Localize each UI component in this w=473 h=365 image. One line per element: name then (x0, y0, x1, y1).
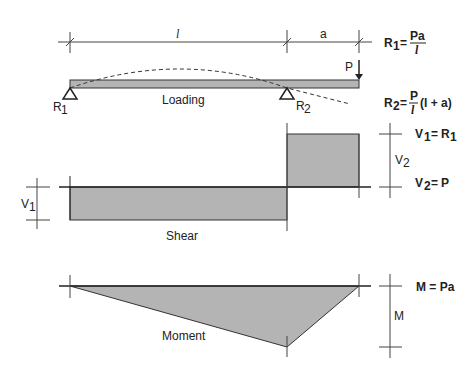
svg-text:M: M (394, 309, 404, 323)
svg-text:1: 1 (393, 39, 400, 53)
svg-text:1: 1 (450, 130, 457, 144)
svg-text:1: 1 (424, 130, 431, 144)
svg-text:Pa: Pa (410, 29, 425, 43)
svg-text:l: l (411, 103, 415, 117)
shear-title: Shear (166, 229, 198, 243)
load-label: P (345, 60, 353, 74)
overhang-label: a (320, 27, 327, 41)
svg-text:P: P (410, 89, 418, 103)
svg-text:P: P (441, 176, 449, 190)
svg-text:2: 2 (424, 179, 431, 193)
svg-text:=: = (400, 36, 407, 50)
moment-diagram (59, 274, 371, 357)
span-label: l (176, 27, 180, 41)
formula-r1: R 1 = Pa l (384, 29, 426, 57)
svg-text:2: 2 (403, 156, 410, 170)
svg-text:=: = (400, 96, 407, 110)
shear-diagram (59, 123, 371, 231)
svg-text:=: = (431, 176, 438, 190)
moment-title: Moment (162, 329, 206, 343)
svg-text:R: R (384, 96, 393, 110)
svg-text:V: V (21, 197, 29, 211)
load-arrow-icon (355, 60, 363, 80)
svg-text:V: V (415, 127, 423, 141)
support-left-sub: 1 (61, 103, 68, 117)
svg-text:l: l (415, 43, 419, 57)
loading-title: Loading (162, 93, 205, 107)
svg-text:V: V (395, 153, 403, 167)
svg-text:V: V (415, 176, 423, 190)
formula-m: M = Pa (416, 280, 455, 294)
beam-diagram: l a R 1 R 2 Loading P R 1 = Pa l R 2 = P… (0, 0, 473, 365)
svg-text:(l + a): (l + a) (420, 96, 452, 110)
svg-text:1: 1 (29, 200, 36, 214)
svg-text:R: R (384, 36, 393, 50)
formula-r2: R 2 = P l (l + a) (384, 89, 452, 117)
support-left-icon (63, 88, 77, 99)
beam (70, 80, 359, 88)
formula-v2: V 2 = P (415, 176, 449, 193)
formula-v1: V 1 = R 1 (415, 127, 457, 144)
svg-text:=: = (431, 127, 438, 141)
support-right-sub: 2 (304, 102, 311, 116)
svg-text:R: R (441, 127, 450, 141)
svg-text:2: 2 (393, 99, 400, 113)
